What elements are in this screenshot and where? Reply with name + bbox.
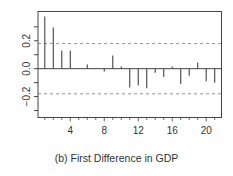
y-tick-label: 0.2 [21, 33, 32, 47]
acf-chart: −0.20.00.2 48121620 [0, 0, 233, 150]
x-axis: 48121620 [45, 118, 215, 136]
plot-frame [38, 12, 222, 118]
x-tick-label: 16 [167, 125, 179, 136]
acf-stems [45, 16, 215, 88]
x-tick-label: 4 [68, 125, 74, 136]
x-tick-label: 20 [201, 125, 213, 136]
x-tick-label: 8 [101, 125, 107, 136]
y-axis: −0.20.00.2 [21, 27, 38, 111]
x-tick-label: 12 [133, 125, 145, 136]
y-tick-label: −0.2 [21, 86, 32, 106]
y-tick-label: 0.0 [21, 61, 32, 75]
figure-caption: (b) First Difference in GDP [0, 152, 233, 164]
